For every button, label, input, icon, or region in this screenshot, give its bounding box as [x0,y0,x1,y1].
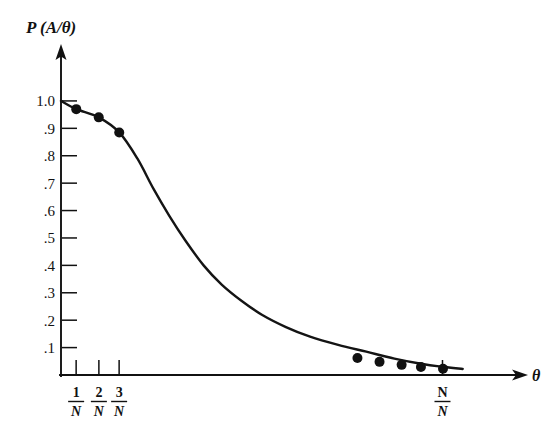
x-axis-ticks: 1N2N3NNN [68,360,450,419]
x-tick-2-over-N: 2N [91,360,107,419]
data-curve [61,101,463,369]
y-tick-label: .2 [44,313,55,329]
y-axis-title: P (A/θ) [25,18,76,37]
y-tick-label: .3 [44,285,55,301]
y-tick-label: .1 [44,340,55,356]
x-tick-numerator: 2 [95,385,102,400]
probability-decay-chart: P (A/θ) θ 1.0.9.8.7.6.5.4.3.2.1 1N2N3NNN [0,0,558,438]
x-axis: θ [60,367,541,384]
data-point [438,364,448,374]
x-tick-denominator: N [113,404,125,419]
data-point [94,112,104,122]
y-tick-label: .7 [44,176,56,192]
x-tick-denominator: N [93,404,105,419]
y-tick-label: .9 [44,121,55,137]
data-point [71,104,81,114]
y-tick-label: .4 [44,258,56,274]
x-tick-numerator: 1 [73,385,80,400]
x-tick-numerator: N [437,385,447,400]
y-tick-label: 1.0 [36,93,55,109]
x-tick-denominator: N [436,404,448,419]
x-tick-numerator: 3 [116,385,123,400]
data-point [352,353,362,363]
y-tick-label: .8 [44,148,55,164]
x-tick-denominator: N [70,404,82,419]
data-point [375,357,385,367]
chart-figure: P (A/θ) θ 1.0.9.8.7.6.5.4.3.2.1 1N2N3NNN [0,0,558,438]
y-tick-label: .6 [44,203,56,219]
x-axis-label-theta: θ [532,367,541,384]
x-tick-3-over-N: 3N [111,360,127,419]
y-axis-title-text: P (A/θ) [25,18,76,37]
x-tick-1-over-N: 1N [68,360,84,419]
y-tick-label: .5 [44,230,55,246]
data-point [416,362,426,372]
data-point [397,360,407,370]
y-axis-ticks: 1.0.9.8.7.6.5.4.3.2.1 [36,93,77,356]
data-point [114,127,124,137]
